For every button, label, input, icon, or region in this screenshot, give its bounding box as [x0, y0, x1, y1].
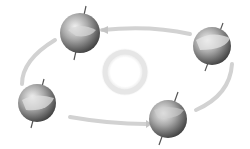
globe-right — [193, 23, 231, 71]
globe-left — [18, 79, 56, 128]
orbit-arc-top — [102, 28, 190, 34]
orbit-arc-left — [22, 40, 55, 84]
arrow-left-icon — [100, 26, 108, 34]
orbit-arc-bottom — [70, 117, 146, 124]
globe-top — [60, 6, 100, 60]
orbit-diagram — [0, 0, 250, 149]
globe-bottom-right — [149, 92, 187, 145]
sun — [101, 48, 149, 96]
orbit-arc-right — [196, 64, 232, 110]
